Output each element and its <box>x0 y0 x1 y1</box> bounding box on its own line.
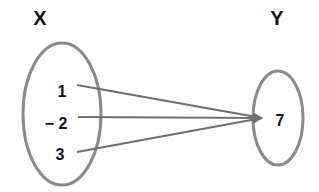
element-neg2: − 2 <box>45 115 68 132</box>
set-x-label: X <box>33 7 47 29</box>
set-y-label: Y <box>270 7 284 29</box>
arrow-1-to-7 <box>77 85 262 118</box>
element-1: 1 <box>58 83 67 100</box>
element-7: 7 <box>276 112 285 129</box>
element-3: 3 <box>56 146 65 163</box>
mapping-diagram: X Y 1 − 2 3 7 <box>0 0 319 192</box>
set-x-ellipse <box>23 43 101 185</box>
arrow-3-to-7 <box>77 118 262 152</box>
arrow-neg2-to-7 <box>78 117 262 118</box>
